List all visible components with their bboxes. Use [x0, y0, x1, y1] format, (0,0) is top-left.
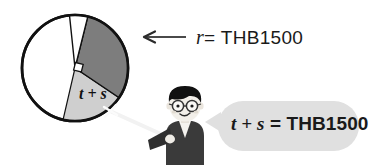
boy-ear-right	[198, 102, 203, 109]
boy-cheek-left	[172, 110, 177, 113]
boy-eye-right	[190, 104, 193, 107]
radius-value: THB1500	[221, 27, 303, 48]
radius-equals: =	[204, 27, 215, 48]
radius-label: r= THB1500	[196, 26, 303, 49]
radius-variable: r	[196, 26, 204, 48]
bubble-expression: t + s	[231, 113, 265, 134]
bubble-value: THB1500	[286, 113, 368, 134]
boy-ear-left	[166, 102, 171, 109]
right-angle-marker	[74, 63, 84, 73]
boy-eye-left	[176, 104, 179, 107]
boy-hand	[165, 135, 175, 144]
sector-label-ts: t + s	[79, 85, 107, 103]
speech-bubble-text: t + s = THB1500	[231, 113, 369, 135]
boy-cheek-right	[194, 110, 199, 113]
student-boy	[148, 86, 204, 165]
bubble-equals: =	[270, 113, 281, 134]
